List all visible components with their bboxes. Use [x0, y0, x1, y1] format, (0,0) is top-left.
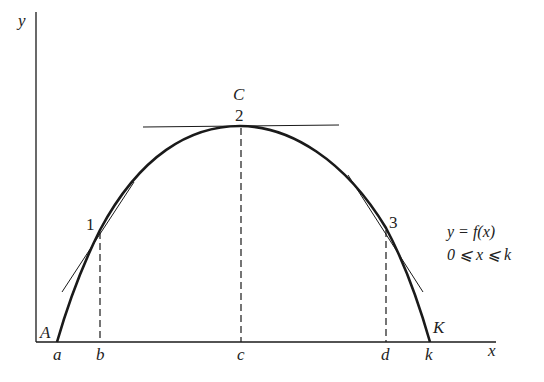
tangent-line-1: [62, 182, 134, 292]
x-tick-b: b: [96, 345, 105, 364]
equation-line-1: y = f(x): [445, 223, 495, 241]
x-tick-a: a: [53, 345, 62, 364]
peak-label: C: [233, 85, 245, 104]
x-tick-c: c: [237, 345, 245, 364]
y-axis-label: y: [16, 11, 26, 30]
point-3-label: 3: [389, 213, 398, 232]
function-curve: [57, 126, 430, 342]
end-point-label: K: [432, 318, 446, 337]
point-1-label: 1: [86, 215, 95, 234]
equation-line-2: 0 ⩽ x ⩽ k: [447, 246, 512, 263]
function-extremum-diagram: y x A K C 1 2 3 a b c d k y = f(x) 0 ⩽ x…: [0, 0, 544, 382]
x-axis-label: x: [487, 341, 496, 360]
x-tick-k: k: [425, 345, 433, 364]
point-2-label: 2: [235, 106, 244, 125]
x-tick-d: d: [381, 345, 390, 364]
start-point-label: A: [39, 323, 51, 342]
